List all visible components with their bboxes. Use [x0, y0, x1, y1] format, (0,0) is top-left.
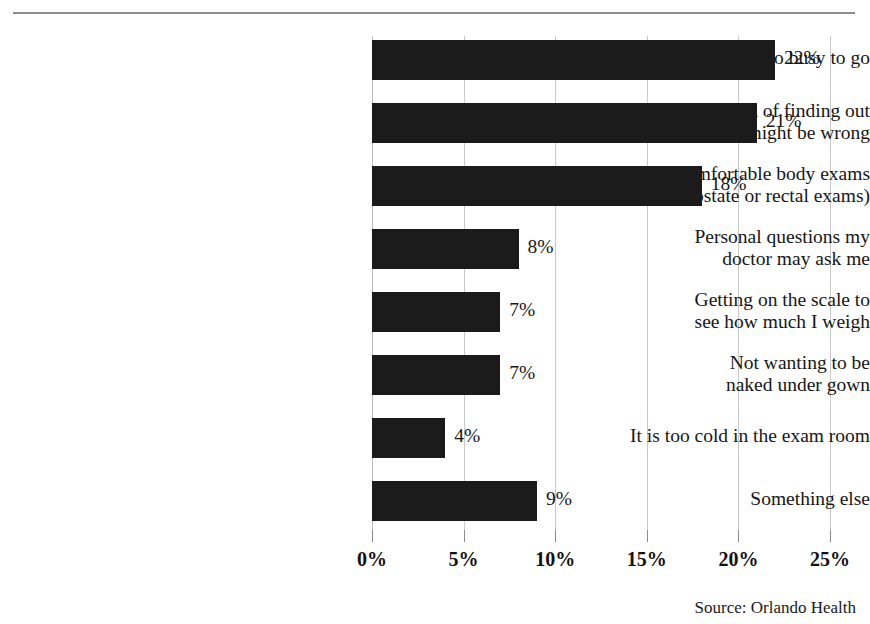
x-tick-mark — [555, 530, 556, 542]
x-tick-mark — [830, 530, 831, 542]
x-tick-label: 5% — [449, 547, 479, 571]
source-note: Source: Orlando Health — [695, 598, 856, 618]
x-tick-label: 25% — [810, 547, 850, 571]
x-tick-mark — [738, 530, 739, 542]
plot-area: Too busy to go22%Afraid of finding out w… — [0, 0, 870, 624]
x-tick-label: 15% — [627, 547, 667, 571]
x-tick-mark — [647, 530, 648, 542]
x-axis-ticks-group: 0%5%10%15%20%25% — [0, 0, 870, 624]
x-tick-mark — [464, 530, 465, 542]
bar-chart: Too busy to go22%Afraid of finding out w… — [0, 0, 870, 624]
x-tick-label: 20% — [718, 547, 758, 571]
x-tick-label: 0% — [357, 547, 387, 571]
x-tick-label: 10% — [535, 547, 575, 571]
x-tick-mark — [372, 530, 373, 542]
